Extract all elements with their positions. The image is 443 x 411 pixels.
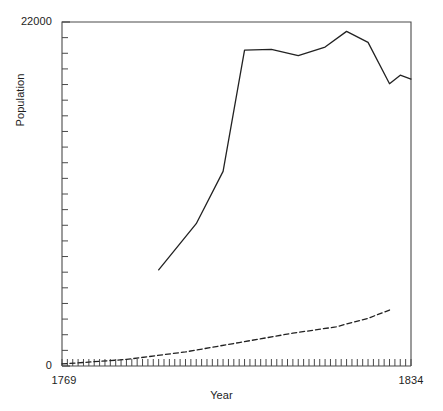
series-line-2 <box>62 310 390 364</box>
chart-figure: Population Year 22000 0 1769 1834 <box>0 0 443 411</box>
series-line-1 <box>159 31 411 269</box>
y-axis-ticks <box>62 22 70 366</box>
plot-canvas <box>0 0 443 411</box>
axes-frame <box>62 22 411 366</box>
data-series-group <box>62 31 411 364</box>
